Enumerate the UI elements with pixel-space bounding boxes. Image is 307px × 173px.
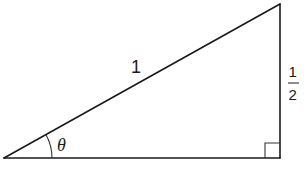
right-triangle-diagram: 1 1 2 θ — [0, 0, 307, 173]
hypotenuse — [4, 4, 280, 158]
opposite-label-numerator: 1 — [289, 63, 297, 80]
right-angle-marker — [265, 143, 280, 158]
angle-arc — [46, 135, 52, 158]
angle-theta-label: θ — [57, 135, 66, 155]
opposite-label-denominator: 2 — [289, 86, 297, 103]
hypotenuse-label: 1 — [131, 57, 141, 77]
